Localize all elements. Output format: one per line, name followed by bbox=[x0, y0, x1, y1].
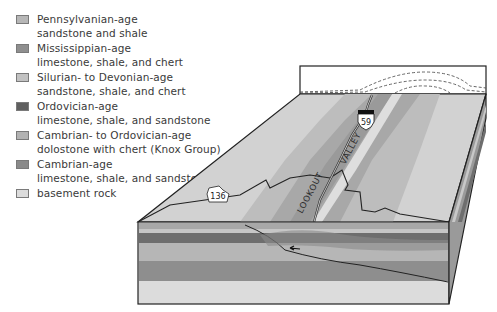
cross-section-front bbox=[138, 222, 449, 304]
shield-59-text: 59 bbox=[361, 118, 371, 127]
geologic-block-diagram: 59 136 LOOKOUT VALLEY bbox=[0, 0, 497, 312]
back-panel bbox=[300, 66, 486, 94]
shield-136-text: 136 bbox=[210, 192, 225, 201]
